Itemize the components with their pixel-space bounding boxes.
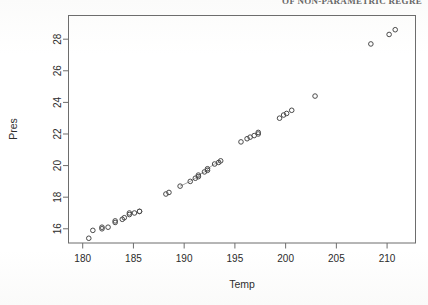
y-tick-label: 16 bbox=[52, 223, 63, 235]
x-tick-label: 180 bbox=[74, 253, 91, 264]
y-axis-tick-labels: 16182022242628 bbox=[52, 33, 63, 234]
plot-canvas: 180185190195200205210 16182022242628 Tem… bbox=[0, 0, 428, 305]
data-point bbox=[393, 27, 398, 32]
y-tick-label: 22 bbox=[52, 128, 63, 140]
data-point bbox=[178, 184, 183, 189]
data-point-group bbox=[86, 27, 397, 240]
scatter-plot-figure: 180185190195200205210 16182022242628 Tem… bbox=[0, 0, 428, 305]
y-tick-label: 18 bbox=[52, 191, 63, 203]
y-tick-label: 20 bbox=[52, 160, 63, 172]
y-axis-title: Pres bbox=[7, 118, 19, 140]
data-point bbox=[106, 225, 111, 230]
y-tick-label: 26 bbox=[52, 65, 63, 77]
x-tick-label: 200 bbox=[277, 253, 294, 264]
data-point bbox=[387, 32, 392, 37]
x-tick-label: 185 bbox=[125, 253, 142, 264]
data-point bbox=[86, 236, 91, 241]
y-tick-label: 28 bbox=[52, 33, 63, 45]
y-axis-ticks bbox=[63, 39, 69, 229]
data-point bbox=[132, 211, 137, 216]
x-tick-label: 195 bbox=[227, 253, 244, 264]
x-tick-label: 205 bbox=[328, 253, 345, 264]
data-point bbox=[239, 140, 244, 145]
data-point bbox=[313, 94, 318, 99]
x-tick-label: 210 bbox=[379, 253, 396, 264]
x-axis-tick-labels: 180185190195200205210 bbox=[74, 253, 396, 264]
y-tick-label: 24 bbox=[52, 96, 63, 108]
data-point bbox=[289, 108, 294, 113]
data-point bbox=[369, 42, 374, 47]
x-axis-ticks bbox=[83, 243, 387, 249]
x-axis-title: Temp bbox=[229, 278, 255, 290]
data-point bbox=[137, 209, 142, 214]
data-point bbox=[277, 116, 282, 121]
x-tick-label: 190 bbox=[176, 253, 193, 264]
data-point bbox=[91, 228, 96, 233]
plot-frame-box bbox=[69, 16, 416, 244]
